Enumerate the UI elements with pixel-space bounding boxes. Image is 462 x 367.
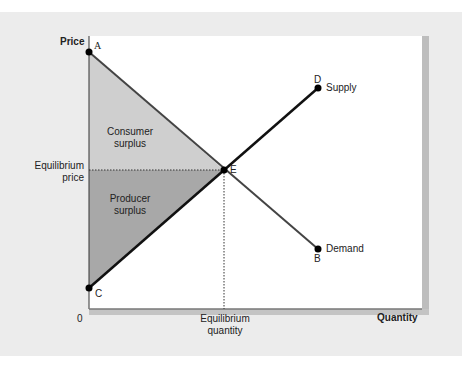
supply-label: Supply — [326, 82, 357, 94]
point-b-label: B — [314, 253, 321, 265]
point-c-label: C — [95, 288, 102, 300]
consumer-surplus-line2: surplus — [100, 138, 160, 150]
equilibrium-quantity-line1: Equilibrium — [190, 313, 260, 325]
point-d-label: D — [314, 74, 321, 86]
point-c-marker — [86, 285, 93, 292]
point-e-marker — [221, 167, 228, 174]
equilibrium-quantity-line2: quantity — [190, 325, 260, 337]
equilibrium-quantity-label: Equilibrium quantity — [190, 313, 260, 337]
demand-label: Demand — [326, 243, 364, 255]
point-e-label: E — [230, 164, 237, 176]
equilibrium-price-line2: price — [14, 172, 84, 184]
y-axis-label: Price — [60, 36, 84, 48]
producer-surplus-label: Producer surplus — [100, 193, 160, 217]
origin-label: 0 — [77, 313, 83, 325]
point-b-marker — [315, 246, 322, 253]
x-axis-label: Quantity — [377, 312, 418, 324]
producer-surplus-line1: Producer — [100, 193, 160, 205]
plot-shadow-right — [422, 36, 429, 314]
producer-surplus-line2: surplus — [100, 205, 160, 217]
consumer-surplus-label: Consumer surplus — [100, 126, 160, 150]
equilibrium-price-line1: Equilibrium — [14, 160, 84, 172]
equilibrium-price-label: Equilibrium price — [14, 160, 84, 184]
point-a-marker — [86, 49, 93, 56]
consumer-surplus-line1: Consumer — [100, 126, 160, 138]
point-a-label: A — [94, 40, 101, 52]
